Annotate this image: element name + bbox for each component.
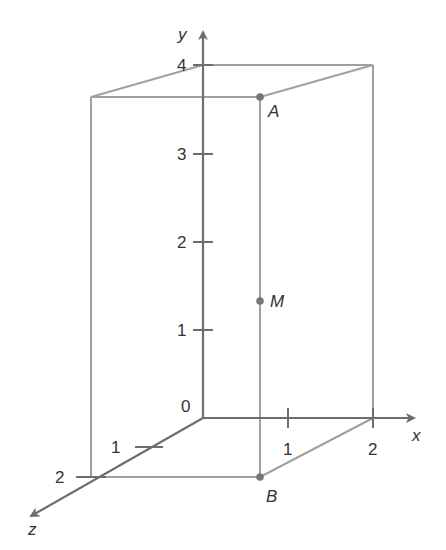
point-m bbox=[256, 297, 264, 305]
x-axis-label: x bbox=[411, 426, 421, 445]
diagram-canvas: y x z 4 3 2 1 1 2 1 2 0 A M B bbox=[0, 0, 446, 550]
y-tick-label-1: 1 bbox=[177, 321, 186, 340]
z-axis-label: z bbox=[27, 520, 37, 539]
y-tick-label-4: 4 bbox=[177, 56, 186, 75]
z-axis bbox=[31, 418, 203, 516]
origin-label: 0 bbox=[181, 397, 190, 416]
coordinate-box-diagram: y x z 4 3 2 1 1 2 1 2 0 A M B bbox=[0, 0, 446, 550]
y-tick-label-2: 2 bbox=[177, 233, 186, 252]
z-tick-label-2: 2 bbox=[55, 468, 64, 487]
x-tick-label-2: 2 bbox=[368, 440, 377, 459]
box-edges bbox=[91, 65, 373, 477]
labels: y x z 4 3 2 1 1 2 1 2 0 A M B bbox=[27, 25, 421, 539]
point-a-label: A bbox=[267, 102, 279, 121]
axes bbox=[31, 32, 414, 516]
x-tick-label-1: 1 bbox=[283, 440, 292, 459]
point-a bbox=[256, 93, 264, 101]
point-m-label: M bbox=[270, 292, 285, 311]
point-b bbox=[256, 473, 264, 481]
edge-bottom-right bbox=[260, 418, 373, 477]
point-b-label: B bbox=[266, 487, 277, 506]
y-tick-label-3: 3 bbox=[177, 145, 186, 164]
edge-top-right bbox=[260, 65, 373, 97]
y-axis-label: y bbox=[177, 25, 188, 44]
ticks bbox=[76, 65, 373, 477]
z-tick-label-1: 1 bbox=[111, 438, 120, 457]
